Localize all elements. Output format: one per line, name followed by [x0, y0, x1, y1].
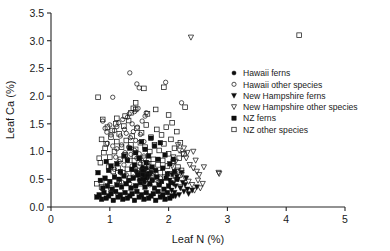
data-point: [123, 190, 128, 195]
data-point: [133, 150, 138, 155]
data-point: [128, 71, 132, 75]
y-axis-title: Leaf Ca (%): [4, 81, 16, 140]
data-point: [156, 157, 161, 162]
data-point: [163, 197, 168, 202]
data-point: [99, 197, 104, 202]
data-point: [111, 198, 116, 203]
data-point: [175, 177, 180, 182]
data-point: [197, 173, 202, 178]
data-point: [129, 186, 134, 191]
data-point: [100, 186, 105, 191]
legend-marker-icon: [232, 127, 236, 131]
legend-item-label: Hawaii other species: [243, 80, 322, 90]
legend-item-label: New Hampshire ferns: [243, 91, 326, 101]
y-tick-label: 1.5: [29, 118, 44, 130]
data-point: [135, 189, 140, 194]
data-point: [297, 33, 302, 38]
scatter-plot-figure: 0.00.51.01.52.02.53.03.5012345Leaf N (%)…: [0, 0, 390, 251]
data-point: [130, 191, 135, 196]
data-point: [120, 197, 125, 202]
data-point: [144, 190, 149, 195]
legend-item-hawaii-other-species[interactable]: Hawaii other species: [232, 80, 322, 90]
y-tick-label: 1.0: [29, 145, 44, 157]
data-point: [187, 163, 192, 168]
data-point: [132, 198, 137, 203]
legend-item-hawaii-ferns[interactable]: Hawaii ferns: [232, 68, 290, 78]
data-point: [172, 169, 177, 174]
legend-group: Hawaii fernsHawaii other speciesNew Hamp…: [231, 68, 357, 135]
data-point: [176, 165, 181, 170]
data-point: [146, 154, 151, 159]
data-point: [108, 155, 113, 160]
data-point: [170, 194, 175, 199]
data-point: [110, 187, 115, 192]
legend-item-nz-other-species[interactable]: NZ other species: [232, 125, 308, 135]
data-point: [147, 149, 152, 154]
data-point: [112, 149, 117, 154]
x-axis-title: Leaf N (%): [172, 233, 225, 245]
data-point: [103, 146, 108, 151]
data-point: [124, 131, 128, 135]
x-tick-label: 3: [224, 213, 230, 225]
data-point: [151, 157, 156, 162]
data-point: [170, 120, 175, 125]
x-tick-label: 5: [342, 213, 348, 225]
data-point: [137, 156, 142, 161]
legend-item-new-hampshire-ferns[interactable]: New Hampshire ferns: [231, 91, 325, 101]
data-point: [164, 125, 169, 130]
data-point: [201, 165, 206, 170]
legend-item-nz-ferns[interactable]: NZ ferns: [232, 113, 276, 123]
data-point: [181, 189, 186, 194]
y-tick-label: 0.5: [29, 173, 44, 185]
data-point: [177, 148, 182, 153]
data-point: [130, 167, 135, 172]
data-point: [115, 139, 120, 144]
legend-marker-icon: [232, 82, 236, 86]
legend-item-new-hampshire-other-species[interactable]: New Hampshire other species: [231, 102, 357, 112]
data-point: [108, 179, 113, 184]
data-point: [186, 191, 191, 196]
legend-item-label: Hawaii ferns: [243, 68, 290, 78]
data-point: [105, 130, 109, 134]
data-point: [99, 137, 104, 142]
data-point: [133, 184, 138, 189]
data-point: [135, 82, 139, 86]
x-tick-label: 1: [107, 213, 113, 225]
data-point: [122, 163, 126, 167]
data-point: [109, 191, 114, 196]
data-point: [166, 113, 171, 118]
data-point: [183, 105, 188, 110]
data-point: [104, 159, 109, 164]
data-point: [112, 175, 117, 180]
data-point: [115, 161, 120, 166]
data-point: [158, 170, 163, 175]
y-tick-label: 3.5: [29, 7, 44, 19]
data-point: [111, 144, 115, 148]
y-tick-label: 2.0: [29, 90, 44, 102]
data-point: [143, 185, 148, 190]
legend-item-label: New Hampshire other species: [243, 102, 358, 112]
data-point: [188, 35, 193, 40]
data-point: [172, 146, 177, 151]
data-point: [101, 119, 105, 123]
data-point: [150, 165, 155, 170]
data-point: [122, 154, 127, 159]
data-point: [198, 186, 203, 191]
plot-canvas: 0.00.51.01.52.02.53.03.5012345Leaf N (%)…: [0, 0, 390, 251]
data-point: [124, 138, 129, 143]
data-point: [119, 185, 124, 190]
data-point: [96, 95, 101, 100]
data-point: [164, 176, 169, 181]
data-point: [96, 170, 101, 175]
data-point: [111, 95, 115, 99]
legend-item-label: NZ other species: [243, 125, 308, 135]
data-point: [163, 80, 167, 84]
data-point: [155, 175, 160, 180]
data-point: [140, 177, 145, 182]
data-point: [131, 176, 136, 181]
legend-marker-icon: [232, 116, 236, 120]
data-point: [106, 168, 111, 173]
data-point: [179, 101, 183, 105]
data-point: [195, 178, 200, 183]
data-point: [132, 163, 137, 168]
